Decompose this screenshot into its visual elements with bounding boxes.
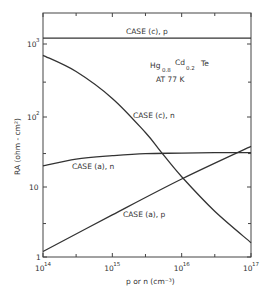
- annotation-hg: Hg: [150, 61, 161, 70]
- annotation-hg-sub: 0.8: [162, 67, 171, 73]
- x-tick-exponent: 14: [44, 261, 51, 267]
- series-label: CASE (c), n: [133, 111, 175, 120]
- chart: 1014101510161017110102103 CASE (c), pCAS…: [0, 0, 273, 294]
- annotation-cd: Cd: [175, 58, 185, 67]
- y-tick-label: 10: [29, 183, 39, 192]
- annotation-temperature: AT 77 K: [156, 75, 185, 84]
- y-tick-label: 1: [36, 253, 41, 262]
- series-label: CASE (c), p: [126, 27, 168, 36]
- material-annotation: Hg 0.8 Cd 0.2 Te AT 77 K: [150, 58, 209, 84]
- x-axis-label: p or n (cm⁻³): [126, 277, 175, 286]
- annotation-cd-sub: 0.2: [186, 65, 195, 71]
- x-tick-exponent: 15: [113, 261, 120, 267]
- y-axis-label: RA (ohm - cm²): [13, 118, 22, 175]
- x-tick-exponent: 16: [183, 261, 190, 267]
- series-label: CASE (a), n: [72, 162, 114, 171]
- x-tick-exponent: 17: [252, 261, 259, 267]
- series-label: CASE (a), p: [123, 210, 165, 219]
- y-tick-exponent: 3: [36, 37, 40, 43]
- y-tick-exponent: 2: [36, 110, 40, 116]
- annotation-te: Te: [200, 59, 209, 68]
- axis-ticks: 1014101510161017110102103: [27, 13, 259, 273]
- data-curves: [43, 38, 251, 251]
